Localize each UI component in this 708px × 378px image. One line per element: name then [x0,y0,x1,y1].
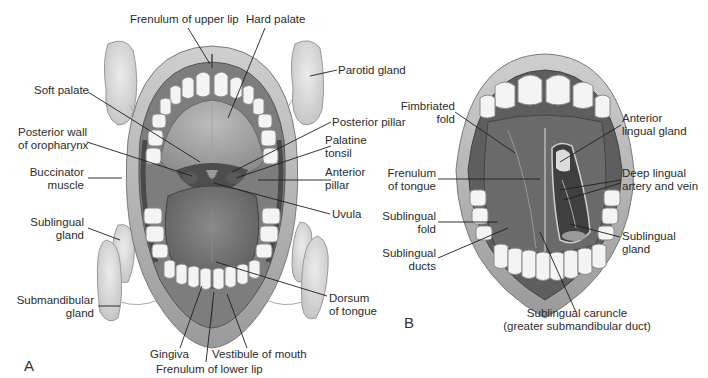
label-uvula: Uvula [332,208,361,221]
label-line-1: Anterior [325,166,365,179]
label-line-1: Sublingual [374,210,436,223]
label-line-2: muscle [18,179,84,192]
label-line-1: Posterior wall [18,126,84,139]
label-frenulum-upper-lip: Frenulum of upper lip [130,13,239,26]
label-line-1: Submandibular [8,294,94,307]
label-line-1: Sublingual caruncle [502,307,652,320]
label-line-1: Sublingual [622,230,676,243]
label-anterior-lingual-gland: Anterior lingual gland [622,112,687,138]
label-line-1: Palatine [325,134,367,147]
label-parotid-gland: Parotid gland [338,64,406,77]
label-line-2: fold [374,223,436,236]
label-line-2: gland [622,243,676,256]
label-line-1: Buccinator [18,166,84,179]
label-line-2: of tongue [329,305,377,318]
label-sublingual-gland-b: Sublingual gland [622,230,676,256]
label-frenulum-lower-lip: Frenulum of lower lip [156,363,263,376]
label-sublingual-gland-a: Sublingual gland [18,216,84,242]
label-vestibule-of-mouth: Vestibule of mouth [212,348,307,361]
label-posterior-wall-oropharynx: Posterior wall of oropharynx [18,126,84,152]
label-submandibular-gland: Submandibular gland [8,294,94,320]
label-sublingual-fold: Sublingual fold [374,210,436,236]
label-line-1: Dorsum [329,292,377,305]
label-line-2: fold [385,113,455,126]
label-line-1: Sublingual [18,216,84,229]
label-line-2: tonsil [325,147,367,160]
label-dorsum-of-tongue: Dorsum of tongue [329,292,377,318]
label-line-2: of oropharynx [18,139,84,152]
label-frenulum-of-tongue: Frenulum of tongue [374,167,436,193]
label-line-2: artery and vein [622,180,698,193]
label-gingiva: Gingiva [150,348,189,361]
label-deep-lingual-artery-vein: Deep lingual artery and vein [622,167,698,193]
label-fimbriated-fold: Fimbriated fold [385,100,455,126]
label-line-1: Anterior [622,112,687,125]
label-line-2: pillar [325,179,365,192]
label-anterior-pillar: Anterior pillar [325,166,365,192]
label-buccinator-muscle: Buccinator muscle [18,166,84,192]
label-line-1: Frenulum [374,167,436,180]
label-line-2: gland [8,307,94,320]
panel-letter-b: B [404,314,414,331]
label-sublingual-caruncle: Sublingual caruncle (greater submandibul… [502,307,652,333]
label-line-2: ducts [374,260,436,273]
label-line-1: Sublingual [374,247,436,260]
label-line-2: gland [18,229,84,242]
label-line-2: (greater submandibular duct) [502,320,652,333]
label-line-1: Deep lingual [622,167,698,180]
panel-b-illustration [456,54,634,318]
label-soft-palate: Soft palate [34,84,89,97]
label-line-2: of tongue [374,180,436,193]
panel-letter-a: A [24,357,34,374]
submandibular-gland-left [97,240,121,321]
label-palatine-tonsil: Palatine tonsil [325,134,367,160]
label-line-1: Fimbriated [385,100,455,113]
label-sublingual-ducts: Sublingual ducts [374,247,436,273]
label-hard-palate: Hard palate [246,13,305,26]
label-line-2: lingual gland [622,125,687,138]
parotid-gland-right [291,41,323,125]
